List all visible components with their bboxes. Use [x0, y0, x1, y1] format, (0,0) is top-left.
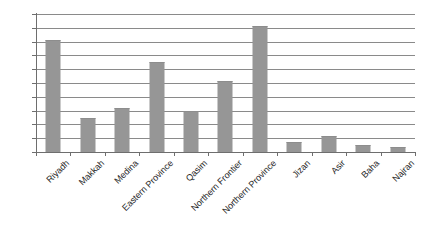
bar[interactable]: [287, 142, 302, 152]
bar-slot: [346, 14, 380, 152]
bar[interactable]: [115, 108, 130, 152]
bars-group: [36, 14, 415, 152]
bar[interactable]: [356, 145, 371, 152]
y-axis-tick-mark: [32, 14, 36, 15]
bar-slot: [105, 14, 139, 152]
x-axis-tick-mark: [36, 152, 37, 156]
bar-slot: [70, 14, 104, 152]
bar-slot: [174, 14, 208, 152]
y-axis-tick-mark: [32, 97, 36, 98]
bar[interactable]: [80, 118, 95, 152]
x-axis-category-label: Makkah: [77, 158, 106, 187]
bar[interactable]: [149, 62, 164, 152]
y-axis-tick-mark: [32, 111, 36, 112]
x-axis-category-label: Riyadh: [45, 158, 72, 185]
x-axis-tick-mark: [277, 152, 278, 156]
x-axis-tick-mark: [105, 152, 106, 156]
cut-off-caption: [0, 232, 421, 238]
x-axis-tick-mark: [346, 152, 347, 156]
y-axis-tick-mark: [32, 83, 36, 84]
bar[interactable]: [218, 81, 233, 152]
x-axis-tick-mark: [208, 152, 209, 156]
bar-slot: [312, 14, 346, 152]
x-axis-category-label: Asir: [329, 158, 347, 176]
y-axis-tick-mark: [32, 138, 36, 139]
bar[interactable]: [46, 40, 61, 152]
y-axis-tick-mark: [32, 124, 36, 125]
bar-slot: [381, 14, 415, 152]
bar-slot: [208, 14, 242, 152]
x-axis-tick-mark: [174, 152, 175, 156]
x-axis-tick-mark: [415, 152, 416, 156]
bar-slot: [36, 14, 70, 152]
x-axis-line: [36, 152, 415, 153]
x-axis-category-label: Jizan: [291, 158, 313, 180]
x-axis-tick-mark: [139, 152, 140, 156]
x-axis-tick-mark: [243, 152, 244, 156]
y-axis-line: [36, 13, 37, 153]
x-axis-category-label: Qasim: [184, 158, 209, 183]
plot-area: [36, 14, 415, 152]
bar-slot: [243, 14, 277, 152]
x-axis-tick-mark: [70, 152, 71, 156]
x-axis-category-label: Medina: [112, 158, 140, 186]
y-axis-tick-mark: [32, 69, 36, 70]
bar[interactable]: [184, 111, 199, 152]
x-axis-category-label: Baha: [360, 158, 382, 180]
bar-slot: [139, 14, 173, 152]
y-axis-tick-mark: [32, 42, 36, 43]
x-axis-tick-mark: [381, 152, 382, 156]
bar-chart: 50.045.040.035.030.025.020.015.010.05.00…: [0, 0, 421, 238]
y-axis-tick-mark: [32, 55, 36, 56]
bar-slot: [277, 14, 311, 152]
x-axis-tick-mark: [312, 152, 313, 156]
bar[interactable]: [252, 26, 267, 152]
bar[interactable]: [321, 136, 336, 152]
x-axis-category-label: Najran: [390, 158, 416, 184]
y-axis-tick-mark: [32, 28, 36, 29]
